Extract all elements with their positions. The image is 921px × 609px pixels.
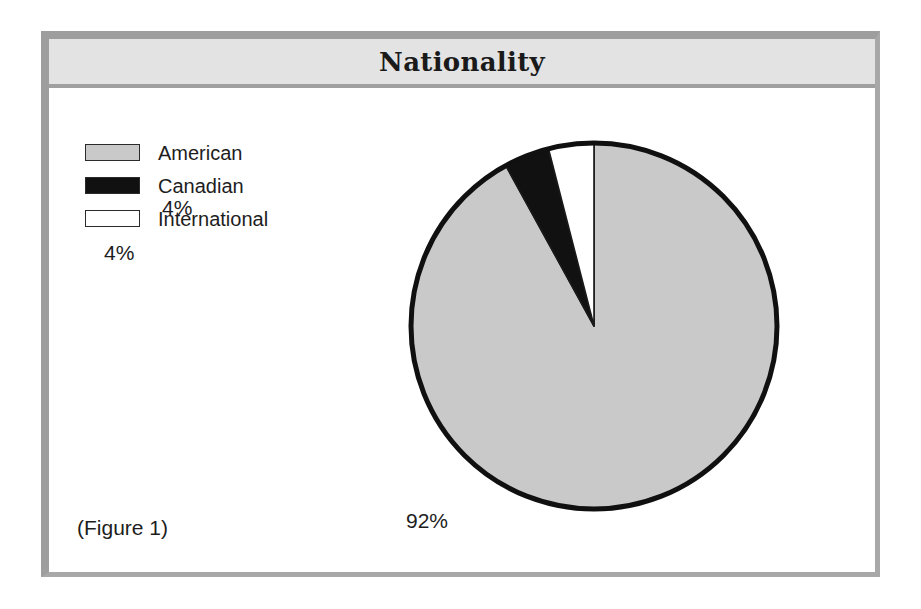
pie-chart-svg: [404, 136, 784, 516]
value-label-american: 92%: [406, 510, 448, 531]
value-label-international: 4%: [162, 197, 192, 218]
plot-area: American Canadian International: [49, 92, 875, 572]
page-title: Nationality: [379, 49, 545, 75]
title-bar: Nationality: [49, 39, 875, 88]
pie-chart: 4% 4% 92%: [49, 92, 875, 572]
figure-caption: (Figure 1): [77, 517, 168, 538]
figure-frame: Nationality American Canadian Internatio…: [41, 31, 880, 577]
value-label-canadian: 4%: [104, 242, 134, 263]
